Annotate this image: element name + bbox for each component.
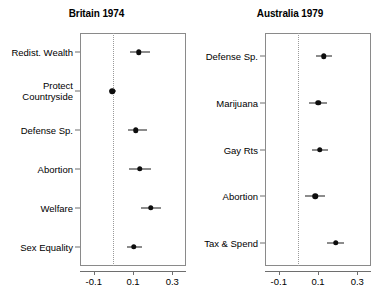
x-axis-tick — [357, 271, 358, 275]
estimate-point — [110, 89, 116, 95]
category-label: Sex Equality — [20, 241, 73, 252]
category-label: Welfare — [40, 202, 73, 213]
estimate-point — [136, 50, 142, 56]
category-label: Abortion — [223, 191, 258, 202]
x-axis-tick — [318, 271, 319, 275]
x-axis-tick-label: 0.3 — [351, 276, 364, 287]
estimate-point — [321, 54, 327, 60]
zero-reference-line — [298, 33, 299, 266]
estimate-point — [312, 193, 318, 199]
category-label: Abortion — [38, 163, 73, 174]
category-label: Defense Sp. — [21, 125, 73, 136]
panel-title: Britain 1974 — [0, 8, 193, 19]
x-axis-tick — [172, 271, 173, 275]
category-label-line: Protect — [22, 80, 73, 91]
category-label-line: Welfare — [40, 202, 73, 213]
panel-title: Australia 1979 — [193, 8, 387, 19]
estimate-point — [317, 147, 323, 153]
category-tick — [75, 52, 80, 53]
category-label-line: Defense Sp. — [21, 125, 73, 136]
x-axis-tick-label: 0.1 — [126, 276, 139, 287]
category-tick — [260, 102, 265, 103]
category-tick — [260, 149, 265, 150]
category-label: Redist. Wealth — [11, 47, 73, 58]
category-tick — [75, 246, 80, 247]
estimate-point — [333, 240, 339, 246]
category-tick — [260, 196, 265, 197]
figure-canvas: Britain 1974-0.10.10.3Redist. WealthProt… — [0, 0, 387, 301]
category-label: Gay Rts — [224, 144, 258, 155]
x-axis-tick-label: 0.1 — [311, 276, 324, 287]
zero-reference-line — [113, 33, 114, 266]
category-label-line: Countryside — [22, 91, 73, 102]
x-axis-tick — [279, 271, 280, 275]
category-label-line: Abortion — [38, 163, 73, 174]
category-label-line: Abortion — [223, 191, 258, 202]
category-label-line: Redist. Wealth — [11, 47, 73, 58]
category-tick — [75, 91, 80, 92]
category-label: Defense Sp. — [206, 51, 258, 62]
category-label: Marijuana — [216, 97, 258, 108]
category-tick — [260, 56, 265, 57]
estimate-point — [131, 244, 137, 250]
category-tick — [75, 168, 80, 169]
chart-panel-1: Britain 1974-0.10.10.3Redist. WealthProt… — [0, 0, 193, 301]
estimate-point — [137, 166, 143, 172]
category-label: ProtectCountryside — [22, 80, 73, 102]
category-label-line: Gay Rts — [224, 144, 258, 155]
plot-area — [80, 33, 186, 266]
x-axis-tick-label: -0.1 — [271, 276, 287, 287]
estimate-point — [133, 127, 139, 133]
category-label-line: Sex Equality — [20, 241, 73, 252]
category-tick — [75, 207, 80, 208]
chart-panel-2: Australia 1979-0.10.10.3Defense Sp.Marij… — [193, 0, 387, 301]
x-axis-tick-label: 0.3 — [166, 276, 179, 287]
category-label: Tax & Spend — [204, 237, 258, 248]
category-label-line: Marijuana — [216, 97, 258, 108]
category-tick — [260, 242, 265, 243]
estimate-point — [148, 205, 154, 211]
estimate-point — [315, 100, 321, 106]
category-label-line: Defense Sp. — [206, 51, 258, 62]
x-axis-tick-label: -0.1 — [86, 276, 102, 287]
category-label-line: Tax & Spend — [204, 237, 258, 248]
x-axis-tick — [133, 271, 134, 275]
category-tick — [75, 130, 80, 131]
x-axis-tick — [94, 271, 95, 275]
